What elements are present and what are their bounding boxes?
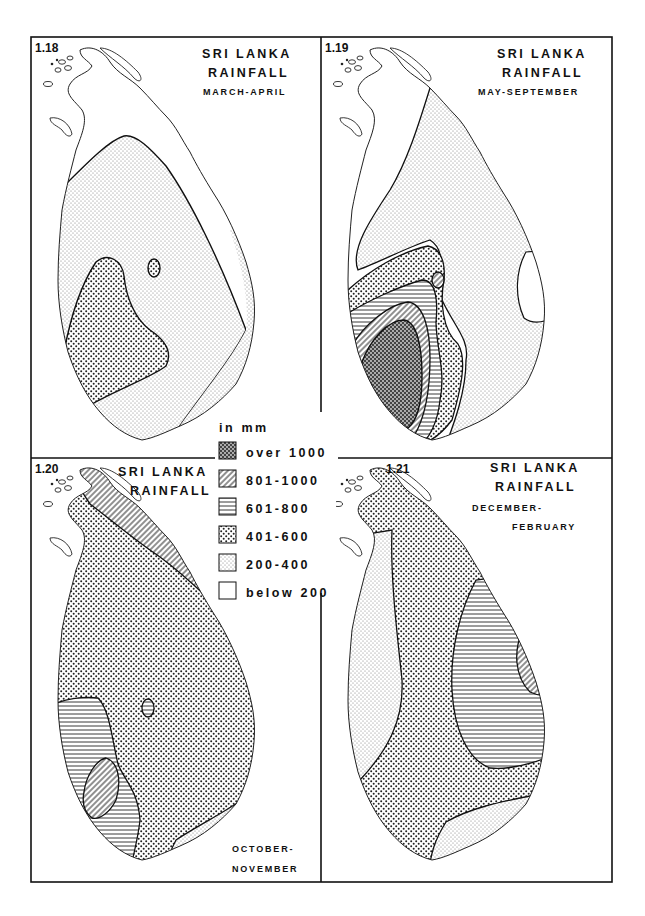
panel-title-line1: SRI LANKA: [202, 47, 292, 61]
panel-title-line1: SRI LANKA: [118, 465, 208, 479]
rainfall-figure: 1.18 SRI LANKA RAINFALL MARCH-APRIL 1.19…: [0, 0, 645, 916]
panel-period-line2: FEBRUARY: [512, 522, 576, 532]
legend: in mm over 1000 801-1000 601-800 401-600…: [216, 412, 336, 600]
panel-title-line1: SRI LANKA: [497, 47, 587, 61]
legend-label: 601-800: [246, 502, 310, 516]
panel-number: 1.21: [386, 462, 410, 476]
panel-period-line2: NOVEMBER: [232, 864, 298, 874]
legend-swatch-diagonal: [219, 470, 236, 487]
legend-swatch-blank: [219, 582, 236, 599]
legend-unit-label: in mm: [219, 421, 269, 435]
panel-title-line2: RAINFALL: [130, 484, 211, 498]
panel-title-line2: RAINFALL: [495, 480, 576, 494]
panel-title-line1: SRI LANKA: [490, 461, 580, 475]
panel-number: 1.18: [35, 41, 59, 55]
panel-1-21: 1.21 SRI LANKA RAINFALL DECEMBER- FEBRUA…: [290, 420, 610, 880]
legend-swatch-dense-dark: [219, 442, 236, 459]
legend-label: 401-600: [246, 530, 310, 544]
legend-swatch-medium-dots: [219, 526, 236, 543]
panel-period-line1: OCTOBER-: [232, 844, 294, 854]
panel-1-18: 1.18 SRI LANKA RAINFALL MARCH-APRIL: [0, 0, 320, 460]
panel-period: MARCH-APRIL: [203, 87, 286, 97]
panel-title-line2: RAINFALL: [208, 66, 289, 80]
legend-label: 200-400: [246, 558, 310, 572]
panel-period: MAY-SEPTEMBER: [478, 87, 579, 97]
legend-label: 801-1000: [246, 474, 320, 488]
panel-title-line2: RAINFALL: [502, 66, 583, 80]
panel-number: 1.20: [35, 462, 59, 476]
legend-label: below 200: [246, 586, 329, 600]
legend-swatch-horizontal: [219, 498, 236, 515]
panel-1-19: 1.19 SRI LANKA RAINFALL MAY-SEPTEMBER: [290, 0, 610, 460]
panel-period-line1: DECEMBER-: [472, 503, 543, 513]
panel-number: 1.19: [325, 41, 349, 55]
legend-label: over 1000: [246, 446, 327, 460]
legend-swatch-light-dots: [219, 554, 236, 571]
